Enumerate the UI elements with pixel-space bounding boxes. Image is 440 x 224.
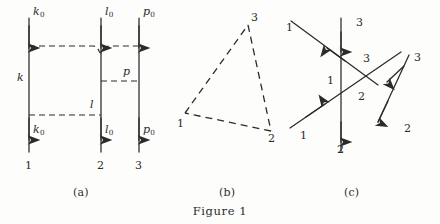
label-c-line2-end: 2 — [404, 123, 411, 134]
label-c-line3-end: 3 — [414, 52, 421, 63]
label-c-line2-mid: 2 — [358, 91, 365, 102]
label-c-line1-mid: 1 — [327, 75, 334, 86]
panel-label-c: (c) — [344, 186, 359, 199]
figure-container: k0 l0 p0 k l p k0 l0 p0 1 2 3 1 2 3 — [0, 0, 440, 224]
panel-label-b: (b) — [219, 186, 235, 199]
label-c-line3-mid: 3 — [363, 53, 370, 64]
label-c-line2-bottom: 2 — [337, 144, 344, 155]
label-c-line1-end: 1 — [300, 130, 307, 141]
figure-caption: Figure 1 — [0, 204, 440, 218]
label-c-line1-start: 1 — [286, 22, 293, 33]
panel-label-a: (a) — [73, 186, 89, 199]
label-c-line3-top: 3 — [356, 17, 363, 28]
